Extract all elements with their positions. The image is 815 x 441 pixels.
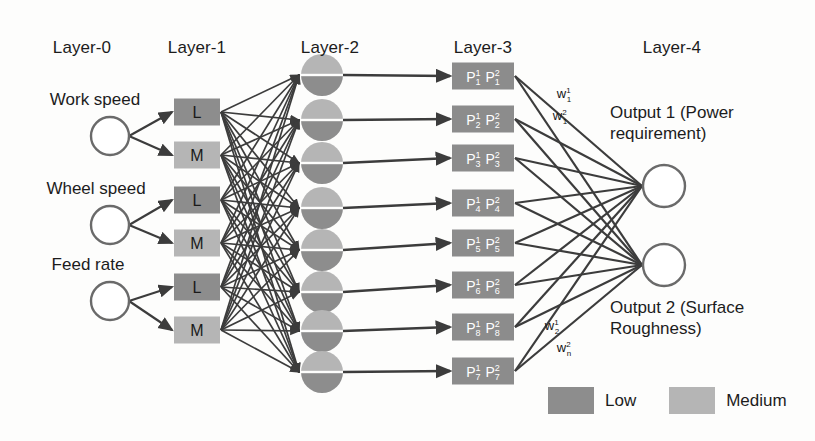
layer3-box-2-term2: P23 — [486, 151, 500, 165]
edge-l2-5-l3-5 — [343, 285, 450, 292]
p-base: P — [486, 68, 495, 84]
edges-layer1-to-layer2 — [221, 75, 299, 372]
edge-l2-6-l3-6 — [343, 327, 450, 331]
input-node-2 — [91, 282, 129, 320]
p-subscript: 4 — [475, 204, 480, 214]
layer-header-0: Layer-0 — [53, 38, 111, 58]
edge-l0-0-l1-1 — [129, 136, 172, 155]
weight-subscript: 1 — [563, 117, 567, 126]
edge-l2-1-l3-1 — [343, 119, 450, 120]
layer3-box-0-term2: P21 — [486, 69, 500, 83]
rule-node-0-lower-half — [301, 76, 343, 97]
p-base: P — [486, 363, 495, 379]
rule-node-6-lower-half — [301, 332, 343, 353]
weight-superscript: 2 — [562, 108, 566, 117]
layer-header-4: Layer-4 — [643, 38, 701, 58]
p-subscript: 7 — [475, 372, 480, 382]
rule-node-5-upper-half — [301, 271, 343, 291]
rule-node-2-upper-half — [301, 142, 343, 162]
connections-canvas — [0, 0, 815, 441]
legend-label-medium: Medium — [726, 391, 786, 411]
rule-node-3-lower-half — [301, 209, 343, 230]
layer3-box-1: P12P22 — [452, 106, 514, 133]
p-subscript: 1 — [475, 77, 480, 87]
rule-node-7 — [301, 351, 343, 394]
edges-layer0-to-layer1 — [129, 112, 172, 330]
rule-node-6-upper-half — [301, 310, 343, 330]
edge-l3-4-l4-1 — [515, 243, 642, 265]
edge-l2-0-l3-0 — [343, 75, 450, 76]
p-subscript: 5 — [475, 244, 480, 254]
p-base: P — [486, 150, 495, 166]
layer-header-3: Layer-3 — [454, 38, 512, 58]
p-subscript: 2 — [475, 120, 480, 130]
rule-node-2 — [301, 142, 343, 185]
p-subscript: 3 — [475, 159, 480, 169]
edge-l0-2-l1-4 — [129, 287, 172, 301]
layer3-box-3: P14P24 — [452, 190, 514, 217]
edge-l0-1-l1-2 — [129, 200, 172, 225]
rule-node-7-upper-half — [301, 351, 343, 371]
weight-base: w — [553, 108, 562, 123]
edge-l0-2-l1-5 — [129, 301, 172, 330]
p-subscript: 8 — [475, 328, 480, 338]
layer3-box-0: P11P21 — [452, 63, 514, 90]
weight-superscript: 1 — [566, 86, 570, 95]
weight-base: w — [557, 86, 566, 101]
p-base: P — [486, 277, 495, 293]
layer3-box-0-term1: P11 — [466, 69, 480, 83]
layer4-nodes — [643, 165, 685, 286]
layer1-box-1-medium: M — [174, 142, 220, 169]
layer3-box-5-term2: P26 — [486, 278, 500, 292]
layer3-box-6: P18P28 — [452, 314, 514, 341]
weight-superscript: 1 — [554, 318, 558, 327]
layer1-box-2-low: L — [174, 187, 220, 214]
rule-node-4-lower-half — [301, 251, 343, 272]
p-base: P — [486, 195, 495, 211]
layer3-box-2-term1: P13 — [466, 151, 480, 165]
layer1-box-5-medium: M — [174, 317, 220, 344]
rule-node-7-lower-half — [301, 373, 343, 394]
input-node-0 — [91, 117, 129, 155]
p-subscript: 6 — [475, 286, 480, 296]
edge-l1-5-l2-6 — [221, 330, 299, 331]
output-label-1: Output 2 (Surface Roughness) — [610, 298, 810, 339]
weight-subscript: 2 — [555, 327, 559, 336]
rule-node-4 — [301, 229, 343, 272]
input-label-2: Feed rate — [52, 255, 125, 275]
layer3-box-4-term1: P15 — [466, 236, 480, 250]
edge-l1-3-l2-0 — [221, 75, 299, 243]
legend-label-low: Low — [605, 391, 636, 411]
edge-l3-2-l4-0 — [515, 158, 642, 186]
input-label-0: Work speed — [50, 90, 140, 110]
input-node-1 — [91, 206, 129, 244]
rule-node-1-lower-half — [301, 121, 343, 142]
rule-node-0 — [301, 54, 343, 97]
edges-layer2-to-layer3 — [343, 75, 450, 372]
layer2-nodes — [301, 54, 343, 394]
weight-label-2: w12 — [545, 318, 559, 333]
layer3-box-3-term1: P14 — [466, 196, 480, 210]
weight-label-1: w21 — [553, 108, 567, 123]
weight-subscript: n — [567, 349, 571, 358]
layer3-box-7-term1: P17 — [466, 364, 480, 378]
output-node-0 — [643, 165, 685, 207]
rule-node-3 — [301, 187, 343, 230]
layer3-box-7-term2: P27 — [486, 364, 500, 378]
p-subscript: 8 — [495, 328, 500, 338]
layer3-box-4: P15P25 — [452, 230, 514, 257]
weight-subscript: 1 — [567, 95, 571, 104]
layer3-box-6-term2: P28 — [486, 320, 500, 334]
edge-l2-2-l3-2 — [343, 158, 450, 163]
p-subscript: 6 — [495, 286, 500, 296]
legend-swatch-low — [548, 387, 594, 414]
layer3-box-7: P17P27 — [452, 358, 514, 385]
edge-l2-4-l3-4 — [343, 243, 450, 250]
layer1-box-0-low: L — [174, 99, 220, 126]
edge-l2-3-l3-3 — [343, 203, 450, 208]
p-subscript: 1 — [495, 77, 500, 87]
layer3-box-2: P13P23 — [452, 145, 514, 172]
output-label-0: Output 1 (Power requirement) — [610, 103, 810, 144]
rule-node-3-upper-half — [301, 187, 343, 207]
rule-node-1-upper-half — [301, 99, 343, 119]
